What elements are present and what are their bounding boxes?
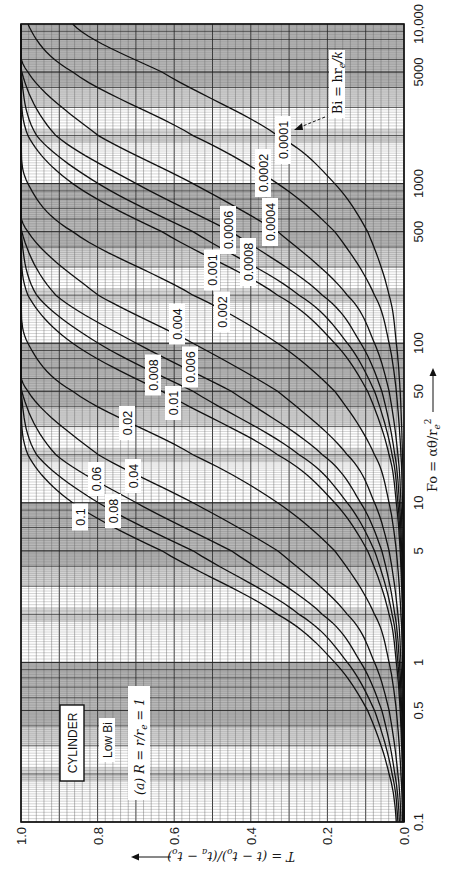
low-bi-label: Low Bi: [99, 718, 115, 762]
fo-tick-labels: 0.10.51510501005001000500010,000: [411, 4, 426, 831]
curve-label-0.0008: 0.0008: [240, 238, 256, 286]
fo-title-main: Fo = αθ/r: [425, 429, 440, 492]
t-tick-label: 0.0: [397, 827, 412, 845]
svg-text:0.008: 0.008: [147, 359, 161, 390]
fo-tick-label: 500: [411, 221, 426, 243]
bi-legend-text: Bi = hre/k: [330, 51, 347, 114]
svg-text:0.002: 0.002: [216, 296, 230, 327]
svg-text:0.004: 0.004: [171, 308, 185, 339]
t-title-b: )/(t: [207, 849, 229, 864]
t-title-c: − t: [177, 849, 202, 864]
curve-label-0.0006: 0.0006: [220, 206, 236, 254]
curve-label-0.01: 0.01: [165, 386, 181, 420]
curve-label-0.002: 0.002: [214, 292, 230, 333]
t-tick-labels: 0.00.20.40.60.81.0: [14, 827, 412, 845]
svg-text:0.0008: 0.0008: [242, 243, 256, 281]
case-end: = 1: [132, 698, 147, 724]
svg-text:0.001: 0.001: [206, 254, 220, 285]
fo-tick-label: 5000: [411, 58, 426, 87]
svg-text:0.08: 0.08: [107, 499, 121, 523]
t-title-text: T = (t − to)/(ta − to): [167, 847, 295, 864]
fo-title-text: Fo = αθ/re2: [423, 418, 442, 492]
cylinder-text: CYLINDER: [66, 712, 80, 773]
fo-tick-label: 0.1: [411, 813, 426, 831]
cylinder-label: CYLINDER: [60, 705, 84, 781]
svg-text:0.0006: 0.0006: [222, 211, 236, 249]
t-tick-label: 0.6: [167, 827, 182, 845]
case-main: (a) R = r/r: [132, 729, 147, 795]
curve-label-0.0002: 0.0002: [255, 149, 271, 197]
fo-tick-label: 100: [411, 332, 426, 354]
case-label: (a) R = r/re = 1: [128, 686, 150, 800]
t-tick-label: 0.2: [320, 827, 335, 845]
t-title-a: T = (t − t: [232, 849, 295, 864]
low-bi-text: Low Bi: [101, 722, 115, 758]
fo-tick-label: 0.5: [411, 701, 426, 719]
fo-tick-label: 5: [411, 547, 426, 554]
chart: 0.10.51510501005001000500010,000 0.00.20…: [0, 0, 453, 884]
svg-text:0.02: 0.02: [121, 411, 135, 435]
bi-end: /k: [330, 51, 345, 64]
svg-text:0.04: 0.04: [127, 464, 141, 488]
svg-text:0.01: 0.01: [167, 391, 181, 415]
curve-label-0.006: 0.006: [182, 347, 198, 388]
t-tick-label: 1.0: [14, 827, 29, 845]
bi-arrow: [294, 117, 325, 130]
fo-tick-label: 10,000: [411, 4, 426, 44]
t-tick-label: 0.8: [91, 827, 106, 845]
t-tick-label: 0.4: [244, 827, 259, 845]
svg-text:0.006: 0.006: [184, 351, 198, 382]
fo-tick-label: 1000: [411, 169, 426, 198]
case-text: (a) R = r/re = 1: [132, 698, 149, 795]
fo-tick-label: 10: [411, 496, 426, 510]
svg-text:0.06: 0.06: [90, 467, 104, 491]
svg-text:0.0002: 0.0002: [257, 154, 271, 192]
fo-title-sub: e: [432, 424, 442, 429]
curve-label-0.02: 0.02: [119, 406, 135, 440]
svg-text:0.1: 0.1: [74, 508, 88, 525]
curve-label-0.001: 0.001: [204, 250, 220, 291]
curve-label-0.004: 0.004: [169, 304, 185, 345]
curve-label-0.0001: 0.0001: [275, 116, 291, 164]
fo-tick-label: 1: [411, 659, 426, 666]
svg-text:0.0004: 0.0004: [264, 203, 278, 241]
fo-tick-label: 50: [411, 384, 426, 398]
fo-title-sup: 2: [423, 418, 433, 424]
t-axis-title: T = (t − to)/(ta − to): [131, 847, 295, 864]
curve-label-0.1: 0.1: [72, 504, 88, 531]
curve-label-0.0004: 0.0004: [262, 198, 278, 246]
svg-text:0.0001: 0.0001: [277, 121, 291, 159]
curve-label-0.06: 0.06: [88, 462, 104, 496]
bi-legend-label: Bi = hre/k: [329, 50, 347, 118]
curve-label-0.08: 0.08: [105, 494, 121, 528]
bi-main: Bi = hr: [330, 68, 345, 114]
curve-label-0.008: 0.008: [145, 355, 161, 396]
curve-label-0.04: 0.04: [125, 459, 141, 493]
